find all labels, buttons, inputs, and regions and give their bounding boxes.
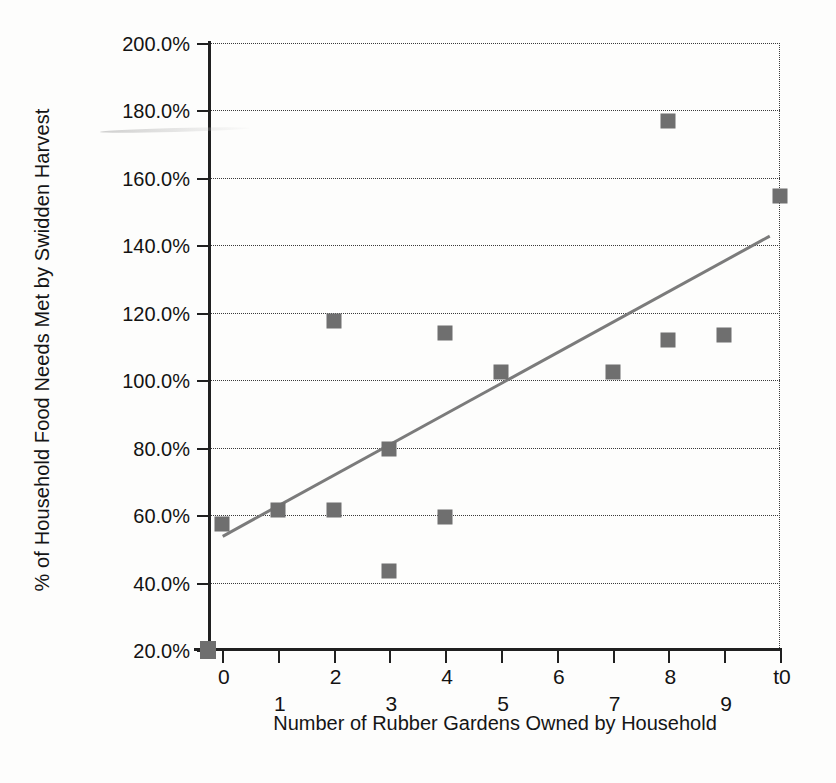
x-tick-label: t0 bbox=[773, 665, 791, 689]
gridline bbox=[208, 43, 780, 44]
y-tick: 160.0% bbox=[197, 178, 208, 180]
x-tick: 6 bbox=[557, 650, 559, 663]
y-tick-label: 100.0% bbox=[122, 370, 190, 393]
data-point bbox=[661, 113, 676, 128]
y-axis-line bbox=[208, 41, 211, 652]
data-point bbox=[493, 364, 508, 379]
y-tick: 40.0% bbox=[197, 583, 208, 585]
y-tick-label: 120.0% bbox=[122, 303, 190, 326]
x-tick: 9 bbox=[724, 650, 726, 663]
y-tick: 80.0% bbox=[197, 448, 208, 450]
x-tick-label: 7 bbox=[609, 692, 621, 716]
data-point bbox=[326, 314, 341, 329]
x-tick: 4 bbox=[445, 650, 447, 663]
x-tick-label: 5 bbox=[497, 692, 509, 716]
y-tick-label: 60.0% bbox=[133, 505, 190, 528]
x-tick-label: 1 bbox=[274, 692, 286, 716]
x-tick: 0 bbox=[222, 650, 224, 663]
gridline bbox=[208, 380, 780, 381]
data-point bbox=[382, 442, 397, 457]
x-tick: 3 bbox=[389, 650, 391, 663]
x-tick-label: 4 bbox=[441, 665, 453, 689]
y-tick-label: 140.0% bbox=[122, 235, 190, 258]
gridline bbox=[208, 313, 780, 314]
y-tick-label: 200.0% bbox=[122, 33, 190, 56]
x-tick: 2 bbox=[334, 650, 336, 663]
data-point bbox=[326, 503, 341, 518]
trendline bbox=[222, 235, 770, 538]
data-point bbox=[605, 364, 620, 379]
y-tick-label: 180.0% bbox=[122, 100, 190, 123]
y-axis-title: % of Household Food Needs Met by Swidden… bbox=[22, 0, 62, 700]
data-point bbox=[270, 503, 285, 518]
gridline bbox=[208, 515, 780, 516]
x-tick: 7 bbox=[613, 650, 615, 663]
x-tick: t0 bbox=[780, 650, 782, 663]
plot-area: 200.0%180.0%160.0%140.0%120.0%100.0%80.0… bbox=[208, 43, 780, 650]
gridline bbox=[208, 110, 780, 111]
y-tick: 60.0% bbox=[197, 515, 208, 517]
x-tick-label: 9 bbox=[720, 692, 732, 716]
x-tick: 8 bbox=[668, 650, 670, 663]
data-point bbox=[214, 516, 229, 531]
y-tick: 140.0% bbox=[197, 245, 208, 247]
y-tick-label: 160.0% bbox=[122, 168, 190, 191]
series-key-marker bbox=[200, 641, 216, 659]
y-tick-label: 40.0% bbox=[133, 573, 190, 596]
x-tick-label: 2 bbox=[330, 665, 342, 689]
y-tick: 120.0% bbox=[197, 313, 208, 315]
gridline bbox=[208, 178, 780, 179]
y-tick-label: 80.0% bbox=[133, 438, 190, 461]
x-axis-line bbox=[194, 648, 782, 651]
chart-page: % of Household Food Needs Met by Swidden… bbox=[0, 0, 836, 783]
data-point bbox=[382, 563, 397, 578]
x-tick: 1 bbox=[278, 650, 280, 663]
data-point bbox=[438, 326, 453, 341]
x-tick: 5 bbox=[501, 650, 503, 663]
data-point bbox=[661, 332, 676, 347]
data-point bbox=[717, 327, 732, 342]
y-tick: 100.0% bbox=[197, 380, 208, 382]
x-tick-label: 0 bbox=[218, 665, 230, 689]
y-tick-label: 20.0% bbox=[133, 640, 190, 663]
x-tick-label: 6 bbox=[553, 665, 565, 689]
plot-right-border bbox=[779, 43, 780, 650]
gridline bbox=[208, 583, 780, 584]
data-point bbox=[773, 188, 788, 203]
x-tick-label: 8 bbox=[665, 665, 677, 689]
y-tick: 180.0% bbox=[197, 110, 208, 112]
x-tick-label: 3 bbox=[386, 692, 398, 716]
data-point bbox=[438, 509, 453, 524]
gridline bbox=[208, 245, 780, 246]
gridline bbox=[208, 448, 780, 449]
y-tick: 200.0% bbox=[197, 43, 208, 45]
